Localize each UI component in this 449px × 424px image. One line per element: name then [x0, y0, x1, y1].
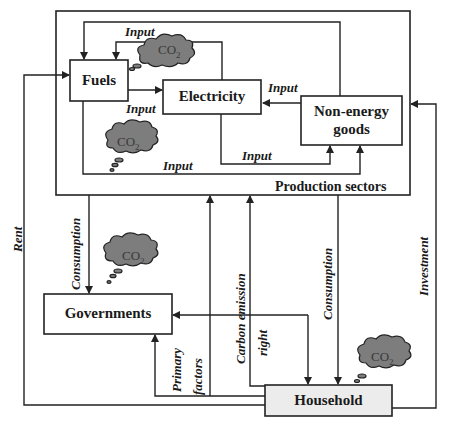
input-label-top: Input: [125, 24, 155, 40]
rent-label: Rent: [10, 227, 26, 252]
input-label-elec-neg: Input: [242, 148, 272, 164]
co2-flow-diagram: CO2 CO2 CO2 CO2 Fuels Electricity Non-en…: [0, 0, 449, 424]
carbon-right-line: [250, 196, 265, 386]
co2-label-governments: CO2: [122, 248, 145, 266]
governments-label: Governments: [44, 305, 172, 322]
non-energy-goods-label-line1: Non-energy: [301, 103, 402, 120]
consumption-gov-label: Consumption: [68, 218, 84, 290]
input-label-fuels-neg: Input: [163, 158, 193, 174]
electricity-label: Electricity: [163, 88, 261, 105]
carbon-emission-label-line2: right: [255, 330, 271, 356]
primary-factors-label-line1: Primary: [169, 348, 185, 392]
non-energy-goods-label-line2: goods: [301, 121, 402, 138]
consumption-house-label: Consumption: [320, 248, 336, 320]
fuels-label: Fuels: [70, 72, 128, 89]
household-label: Household: [265, 392, 392, 409]
production-sectors-label: Production sectors: [275, 178, 386, 195]
investment-label: Investment: [416, 237, 432, 296]
input-label-neg-elec: Input: [268, 80, 298, 96]
input-label-fuels-elec: Input: [126, 101, 156, 117]
co2-label-household: CO2: [371, 349, 394, 367]
co2-label-fuels: CO2: [158, 42, 181, 60]
co2-label-production: CO2: [117, 134, 140, 152]
carbon-emission-label-line1: Carbon emission: [233, 273, 249, 364]
primary-factors-label-line2: factors: [190, 358, 206, 395]
